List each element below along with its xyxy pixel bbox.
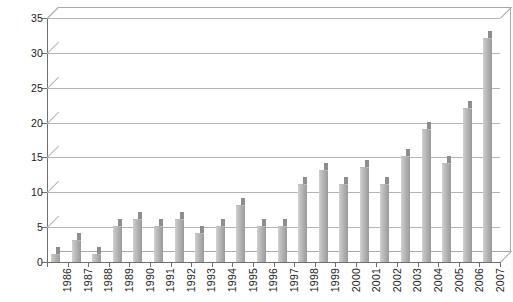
- x-tick-mark: [335, 262, 336, 267]
- bar: [278, 226, 287, 262]
- bar: [236, 205, 245, 262]
- x-tick-mark: [253, 262, 254, 267]
- x-tick-label: 2000: [350, 268, 362, 292]
- x-tick-label: 1997: [288, 268, 300, 292]
- x-tick-mark: [274, 262, 275, 267]
- x-tick-label: 1988: [102, 268, 114, 292]
- x-tick-mark: [294, 262, 295, 267]
- x-tick-mark: [438, 262, 439, 267]
- bar: [175, 219, 184, 262]
- x-tick-label: 1989: [123, 268, 135, 292]
- x-tick-mark: [315, 262, 316, 267]
- bar: [298, 184, 307, 262]
- x-tick-mark: [171, 262, 172, 267]
- y-tick-label: 15: [31, 151, 43, 163]
- x-tick-label: 1990: [144, 268, 156, 292]
- x-tick-label: 1987: [82, 268, 94, 292]
- bar: [422, 129, 431, 262]
- bar: [154, 226, 163, 262]
- x-tick-label: 2006: [473, 268, 485, 292]
- bar: [113, 226, 122, 262]
- x-tick-mark: [376, 262, 377, 267]
- x-tick-mark: [418, 262, 419, 267]
- bar: [401, 156, 410, 262]
- x-tick-mark: [129, 262, 130, 267]
- x-tick-mark: [47, 262, 48, 267]
- y-axis-ticks: 05101520253035: [0, 0, 43, 302]
- bar: [339, 184, 348, 262]
- x-tick-mark: [150, 262, 151, 267]
- x-tick-label: 1986: [61, 268, 73, 292]
- x-tick-label: 1996: [267, 268, 279, 292]
- y-tick-label: 30: [31, 47, 43, 59]
- bar: [360, 167, 369, 262]
- x-tick-label: 2002: [391, 268, 403, 292]
- x-tick-label: 2005: [453, 268, 465, 292]
- y-tick-label: 25: [31, 82, 43, 94]
- bar: [195, 233, 204, 262]
- x-tick-mark: [191, 262, 192, 267]
- y-tick-label: 5: [37, 221, 43, 233]
- x-tick-mark: [397, 262, 398, 267]
- x-tick-mark: [88, 262, 89, 267]
- x-tick-label: 1992: [185, 268, 197, 292]
- x-tick-mark: [500, 262, 501, 267]
- chart-bars: [47, 18, 500, 262]
- x-tick-label: 1998: [308, 268, 320, 292]
- x-tick-mark: [68, 262, 69, 267]
- x-tick-label: 2004: [432, 268, 444, 292]
- bar: [257, 226, 266, 262]
- x-tick-mark: [459, 262, 460, 267]
- bar-chart: 05101520253035 1986198719881989199019911…: [0, 0, 513, 302]
- bar: [442, 163, 451, 262]
- x-tick-label: 1995: [247, 268, 259, 292]
- bar: [483, 38, 492, 262]
- y-tick-label: 0: [37, 256, 43, 268]
- gridline-depth: [47, 7, 59, 19]
- x-tick-label: 2007: [494, 268, 506, 292]
- x-tick-mark: [232, 262, 233, 267]
- bar: [319, 170, 328, 262]
- y-tick-label: 20: [31, 117, 43, 129]
- x-tick-label: 1999: [329, 268, 341, 292]
- x-tick-label: 1993: [205, 268, 217, 292]
- x-tick-mark: [479, 262, 480, 267]
- x-tick-mark: [109, 262, 110, 267]
- y-tick-label: 35: [31, 12, 43, 24]
- bar: [133, 219, 142, 262]
- x-tick-mark: [356, 262, 357, 267]
- bar: [463, 108, 472, 262]
- bar: [72, 240, 81, 262]
- bar: [380, 184, 389, 262]
- x-axis-labels: 1986198719881989199019911992199319941995…: [47, 264, 511, 302]
- x-tick-label: 1991: [164, 268, 176, 292]
- x-tick-label: 2003: [411, 268, 423, 292]
- y-tick-label: 10: [31, 186, 43, 198]
- x-tick-label: 2001: [370, 268, 382, 292]
- bar: [216, 226, 225, 262]
- x-tick-mark: [212, 262, 213, 267]
- x-tick-label: 1994: [226, 268, 238, 292]
